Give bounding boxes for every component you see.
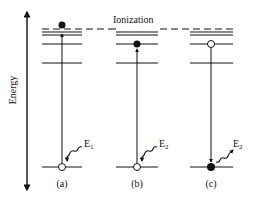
photon-energy-label-b: E2 <box>159 138 169 151</box>
photon-arrow-b <box>142 147 157 161</box>
photon-arrow-a <box>67 147 82 161</box>
panel-a: E1 (a) <box>42 22 94 191</box>
panel-b: E2 (b) <box>116 32 169 190</box>
panel-label-a: (a) <box>56 178 67 190</box>
energy-level-diagram: Energy Ionization E1 (a) <box>0 0 253 199</box>
energy-axis-label: Energy <box>7 76 18 105</box>
hole-open-c <box>208 41 215 48</box>
photon-emission-arrow-c <box>216 150 233 162</box>
electron-filled-c <box>207 163 215 171</box>
photon-energy-label-a: E1 <box>84 138 94 151</box>
panel-label-b: (b) <box>131 178 143 190</box>
photon-energy-label-c: E2 <box>233 138 243 151</box>
panel-label-c: (c) <box>205 178 216 190</box>
hole-open-a <box>59 164 66 171</box>
ionization-label: Ionization <box>113 14 154 25</box>
electron-filled-a <box>59 22 66 29</box>
electron-filled-b <box>134 41 141 48</box>
panel-c: E2 (c) <box>190 32 243 190</box>
hole-open-b <box>134 164 141 171</box>
